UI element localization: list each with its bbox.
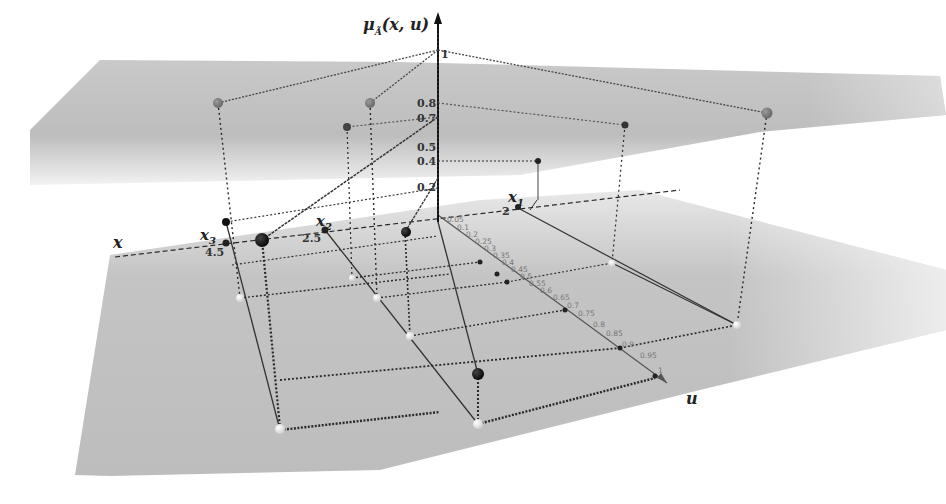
- x2-point: [322, 227, 329, 234]
- big-point: [472, 368, 484, 380]
- u-axis-label: u: [686, 389, 698, 408]
- svg-text:0.2: 0.2: [417, 181, 436, 194]
- svg-text:0.9: 0.9: [622, 340, 634, 349]
- svg-text:2.5: 2.5: [302, 232, 321, 245]
- upper-point: [213, 98, 223, 108]
- lower-point: [236, 294, 244, 302]
- upper-point: [622, 122, 629, 129]
- svg-text:0.6: 0.6: [540, 286, 552, 295]
- big-point: [255, 233, 269, 247]
- svg-text:x3: x3: [199, 226, 216, 246]
- upper-point: [343, 123, 351, 131]
- svg-text:0.5: 0.5: [417, 141, 436, 154]
- svg-text:μÃ(x, u): μÃ(x, u): [363, 15, 429, 37]
- svg-text:4.5: 4.5: [205, 246, 224, 259]
- svg-text:0.85: 0.85: [606, 329, 623, 338]
- lower-point: [349, 275, 355, 281]
- lower-point: [733, 321, 741, 329]
- svg-text:1: 1: [658, 366, 663, 375]
- lower-point: [373, 294, 381, 302]
- upper-point: [762, 108, 773, 119]
- lower-point: [406, 332, 414, 340]
- type2-fuzzy-3d-diagram: 0.05 0.1 0.2 0.25 0.3 0.35 0.4 0.45 0.5 …: [0, 0, 946, 504]
- svg-text:0.7: 0.7: [417, 112, 436, 125]
- svg-text:2: 2: [502, 205, 510, 218]
- x3-point: [223, 240, 230, 247]
- x1-point: [515, 204, 521, 210]
- z-axis-arrowhead: [434, 12, 442, 24]
- lower-point: [473, 419, 483, 429]
- svg-text:0.8: 0.8: [593, 320, 605, 329]
- z-axis-label: μÃ(x, u): [363, 15, 429, 37]
- svg-text:0.95: 0.95: [640, 351, 657, 360]
- big-point: [401, 227, 411, 237]
- upper-point: [365, 98, 375, 108]
- svg-text:0.4: 0.4: [417, 155, 436, 168]
- svg-text:0.75: 0.75: [578, 309, 595, 318]
- lower-point: [609, 260, 616, 267]
- upper-point: [535, 158, 541, 164]
- x-axis-label: x: [112, 233, 123, 252]
- svg-text:1: 1: [441, 48, 449, 61]
- lower-point: [275, 424, 285, 434]
- x3-point-upper: [222, 218, 230, 226]
- svg-text:0.8: 0.8: [417, 97, 436, 110]
- upper-plane: [30, 60, 946, 185]
